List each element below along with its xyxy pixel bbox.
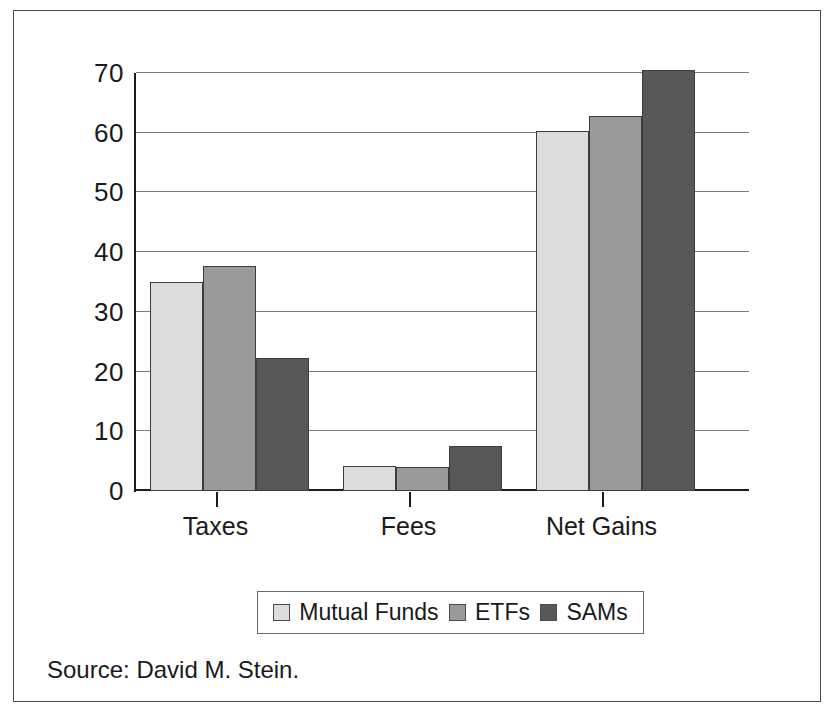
legend-swatch-icon — [449, 604, 466, 621]
y-tick-label: 0 — [58, 478, 124, 504]
legend-entry: ETFs — [449, 600, 530, 625]
bar-group — [343, 73, 513, 491]
legend-label: Mutual Funds — [299, 600, 438, 625]
bar — [343, 466, 396, 491]
legend-swatch-icon — [540, 604, 557, 621]
source-note: Source: David M. Stein. — [47, 656, 299, 684]
bar — [449, 446, 502, 491]
x-tick — [409, 492, 411, 507]
x-tick — [602, 492, 604, 507]
chart-legend: Mutual FundsETFsSAMs — [257, 591, 644, 634]
bar — [536, 131, 589, 491]
y-tick-label: 20 — [58, 359, 124, 385]
plot-area — [136, 73, 749, 491]
y-tick-label: 40 — [58, 239, 124, 265]
bar — [203, 266, 256, 491]
y-tick-label: 10 — [58, 418, 124, 444]
legend-entry: Mutual Funds — [273, 600, 438, 625]
y-tick-label: 50 — [58, 179, 124, 205]
bar — [589, 116, 642, 491]
x-axis-category-label: Taxes — [106, 511, 326, 541]
legend-label: ETFs — [475, 600, 530, 625]
bar — [642, 70, 695, 491]
legend-entry: SAMs — [540, 600, 627, 625]
bar — [256, 358, 309, 491]
x-tick — [216, 492, 218, 507]
y-tick-label: 60 — [58, 120, 124, 146]
x-axis-category-label: Fees — [299, 511, 519, 541]
y-tick-label: 30 — [58, 299, 124, 325]
figure-frame: 010203040506070 TaxesFeesNet Gains Mutua… — [13, 10, 821, 702]
bar-group — [150, 73, 320, 491]
y-axis-tick-labels: 010203040506070 — [44, 11, 124, 724]
legend-swatch-icon — [273, 604, 290, 621]
bar — [150, 282, 203, 491]
x-axis-category-label: Net Gains — [492, 511, 712, 541]
y-tick-label: 70 — [58, 60, 124, 86]
legend-label: SAMs — [566, 600, 627, 625]
bar-group — [536, 73, 706, 491]
bar — [396, 467, 449, 491]
